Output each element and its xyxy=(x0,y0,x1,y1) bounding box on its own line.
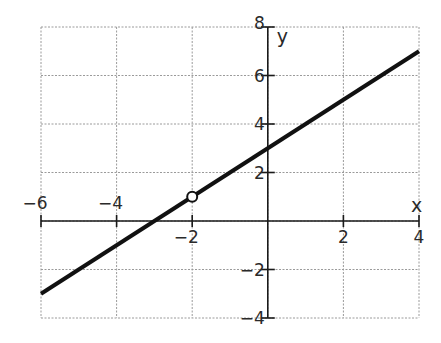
y-tick-label: 8 xyxy=(254,13,265,33)
x-tick-label: −4 xyxy=(98,193,123,213)
y-tick-label: −4 xyxy=(240,308,265,328)
y-tick-label: 6 xyxy=(254,66,265,86)
y-tick-label: 4 xyxy=(254,114,265,134)
x-axis-label: x xyxy=(411,194,422,216)
open-circle-point xyxy=(187,192,197,202)
x-tick-label: −2 xyxy=(174,227,199,247)
tick-labels: −6−4−224−4−22468 xyxy=(22,13,424,328)
x-tick-label: 2 xyxy=(338,227,349,247)
coordinate-plane: −6−4−224−4−22468 x y xyxy=(0,0,441,343)
annotations xyxy=(187,192,197,202)
x-tick-label: 4 xyxy=(414,227,425,247)
y-tick-label: 2 xyxy=(254,163,265,183)
y-tick-label: −2 xyxy=(240,260,265,280)
y-axis-label: y xyxy=(277,25,288,47)
x-tick-label: −6 xyxy=(22,193,47,213)
